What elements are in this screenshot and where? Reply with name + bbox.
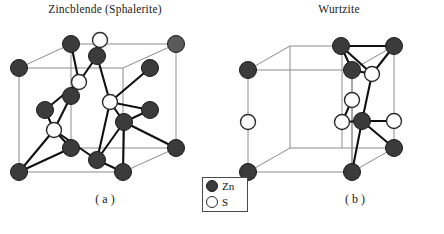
s-atom	[345, 93, 360, 108]
wurtzite-diagram	[234, 22, 444, 187]
zn-atom	[89, 48, 106, 65]
structure-title-zincblende: Zincblende (Sphalerite)	[0, 3, 210, 15]
zn-atom	[386, 140, 403, 157]
s-atom	[365, 67, 380, 82]
legend-box: Zn S	[202, 177, 248, 212]
open-circle-icon	[206, 196, 218, 208]
zn-atoms	[11, 36, 185, 181]
s-atom	[93, 33, 108, 48]
zn-atom	[37, 102, 54, 119]
zincblende-diagram	[0, 22, 210, 187]
panel-label-a: ( a )	[50, 192, 160, 207]
crystal-structure-figure: Zincblende (Sphalerite) Wurtzite	[0, 0, 444, 234]
structure-title-wurtzite: Wurtzite	[234, 3, 444, 15]
zn-atom	[168, 140, 185, 157]
legend-label-s: S	[222, 197, 228, 208]
zn-atom	[89, 152, 106, 169]
s-atom	[335, 115, 350, 130]
unit-cell-edges	[248, 46, 394, 172]
filled-circle-icon	[206, 180, 218, 192]
s-atom	[103, 95, 118, 110]
zn-atom	[63, 36, 80, 53]
zn-atom	[142, 60, 159, 77]
s-atom	[72, 75, 87, 90]
zn-atom	[63, 88, 80, 105]
s-atom	[241, 115, 256, 130]
zn-atom	[63, 140, 80, 157]
zn-atoms	[240, 38, 403, 181]
zn-atom	[142, 102, 159, 119]
zn-atom	[116, 114, 133, 131]
zn-atom	[168, 36, 185, 53]
zn-atom	[344, 62, 361, 79]
panel-label-b: ( b )	[300, 192, 410, 207]
s-atom	[47, 123, 62, 138]
legend-item-zn: Zn	[206, 178, 234, 194]
legend-item-s: S	[206, 194, 228, 210]
zn-atom	[344, 164, 361, 181]
legend-label-zn: Zn	[222, 181, 234, 192]
zn-atom	[11, 60, 28, 77]
zn-atom	[11, 164, 28, 181]
zn-atom	[333, 38, 350, 55]
zn-atom	[386, 38, 403, 55]
zn-atom	[240, 62, 257, 79]
s-atom	[387, 114, 402, 129]
zn-atom	[115, 164, 132, 181]
zn-atom	[354, 113, 371, 130]
